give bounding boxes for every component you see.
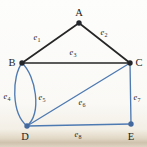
vertex-A-dot	[76, 20, 81, 25]
graph-diagram-svg: e1e2e3e4e5e6e7e8ABCDE	[0, 0, 147, 147]
edge-e2-line	[79, 23, 130, 63]
edges-group	[15, 23, 131, 126]
vertex-D-label: D	[21, 131, 29, 142]
edge-e4-curve	[15, 63, 27, 126]
vertex-C-dot	[127, 60, 132, 65]
vertex-E-label: E	[128, 131, 134, 142]
edge-e6-line	[27, 63, 130, 126]
edge-e7-line	[130, 63, 131, 124]
edge-e6-label: e6	[79, 97, 86, 108]
edge-e1-label: e1	[34, 32, 41, 43]
vertex-C-label: C	[135, 57, 142, 68]
vertex-E-dot	[128, 121, 133, 126]
edge-e3-label: e3	[70, 47, 77, 58]
edge-e1-line	[22, 23, 79, 63]
scanned-page: e1e2e3e4e5e6e7e8ABCDE	[0, 0, 147, 147]
edge-e7-label: e7	[134, 92, 141, 103]
edge-e8-label: e8	[75, 129, 82, 140]
vertex-B-label: B	[8, 57, 15, 68]
edge-e5-label: e5	[39, 92, 46, 103]
vertex-B-dot	[19, 60, 24, 65]
edge-e8-line	[27, 124, 131, 126]
vertex-D-dot	[24, 123, 29, 128]
edge-e5-curve	[22, 63, 36, 126]
edge-e4-label: e4	[4, 91, 11, 102]
vertex-A-label: A	[75, 7, 83, 18]
edge-e2-label: e2	[101, 27, 108, 38]
